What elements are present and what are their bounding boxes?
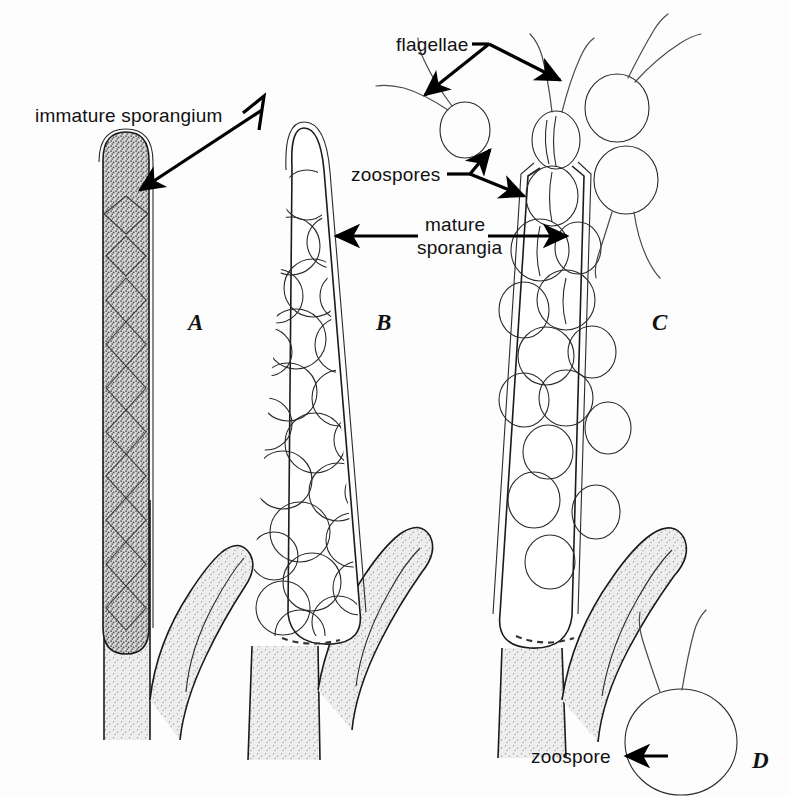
label-mature-line2: sporangia [417, 237, 502, 258]
panel-letter-b: B [375, 310, 391, 335]
panel-letter-c: C [652, 310, 668, 335]
figure-plate: A [0, 0, 790, 797]
panel-b-stalk-fill [248, 646, 320, 760]
label-flagellae: flagellae [396, 34, 469, 55]
panel-letter-d: D [751, 748, 769, 773]
label-mature-line1: mature [425, 214, 485, 235]
label-zoospore: zoospore [531, 746, 611, 767]
label-immature-sporangium: immature sporangium [35, 105, 223, 126]
label-zoospores: zoospores [351, 164, 440, 185]
panel-letter-a: A [186, 310, 203, 335]
panel-c-stalk-fill [498, 648, 566, 758]
sporangium-illustration: A [0, 0, 790, 797]
